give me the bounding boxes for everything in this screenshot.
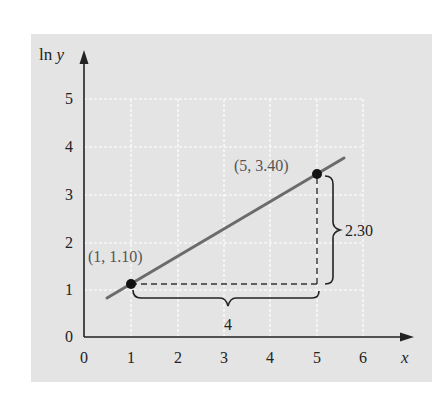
data-point-1 xyxy=(126,279,136,289)
x-tick: 6 xyxy=(359,349,367,366)
x-tick: 1 xyxy=(127,349,135,366)
y-tick: 5 xyxy=(65,90,73,107)
x-tick: 5 xyxy=(313,349,321,366)
data-point-2 xyxy=(312,169,322,179)
y-tick: 2 xyxy=(65,234,73,251)
point-1-label: (1, 1.10) xyxy=(88,248,143,266)
x-tick: 0 xyxy=(80,349,88,366)
x-tick: 3 xyxy=(220,349,228,366)
y-tick: 3 xyxy=(65,186,73,203)
x-axis-label: x xyxy=(400,348,409,367)
x-tick: 2 xyxy=(174,349,182,366)
x-tick: 4 xyxy=(266,349,274,366)
rise-label: 2.30 xyxy=(345,222,373,239)
point-2-label: (5, 3.40) xyxy=(234,157,289,175)
run-label: 4 xyxy=(224,316,232,333)
y-tick: 0 xyxy=(65,328,73,345)
y-tick: 1 xyxy=(65,281,73,298)
chart: ln y x 0 1 2 3 4 5 6 0 1 2 3 4 5 4 2.30 … xyxy=(0,0,448,398)
y-tick: 4 xyxy=(65,138,73,155)
y-axis-label: ln y xyxy=(39,45,64,64)
